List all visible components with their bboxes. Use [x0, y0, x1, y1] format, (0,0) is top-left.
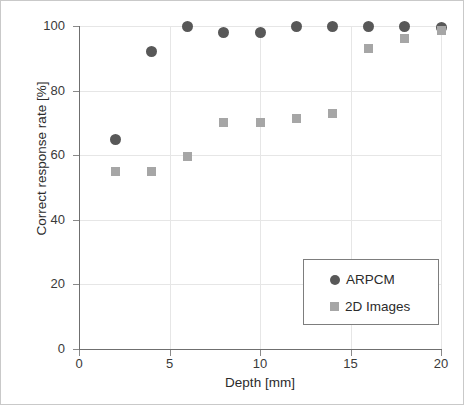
y-axis-tick	[73, 220, 79, 221]
gridline-vertical	[170, 26, 171, 349]
x-axis-tick-label: 15	[343, 357, 357, 370]
y-axis-tick	[73, 284, 79, 285]
y-axis-tick-label: 100	[43, 19, 65, 32]
data-point-circle	[110, 134, 121, 145]
y-axis-tick-label: 0	[58, 342, 65, 355]
chart-figure: 02040608010005101520 Correct response ra…	[0, 0, 464, 405]
data-point-square	[111, 167, 120, 176]
y-axis-title: Correct response rate [%]	[34, 39, 49, 279]
data-point-circle	[399, 21, 410, 32]
legend-label-2d-images: 2D Images	[345, 299, 410, 314]
data-point-square	[364, 44, 373, 53]
y-axis-tick-label: 40	[51, 213, 65, 226]
y-axis-title-wrapper: Correct response rate [%]	[1, 1, 41, 405]
data-point-square	[256, 118, 265, 127]
data-point-square	[437, 26, 446, 35]
data-point-circle	[182, 21, 193, 32]
y-axis-line	[79, 26, 80, 350]
data-point-square	[328, 109, 337, 118]
legend-square-marker-icon	[330, 302, 339, 311]
x-axis-tick-label: 0	[75, 357, 82, 370]
x-axis-tick-label: 20	[434, 357, 448, 370]
y-axis-tick	[73, 91, 79, 92]
data-point-square	[183, 152, 192, 161]
x-axis-title: Depth [mm]	[79, 375, 441, 390]
data-point-square	[292, 114, 301, 123]
legend-label-arpcm: ARPCM	[346, 272, 395, 287]
gridline-vertical	[441, 26, 442, 349]
y-axis-tick-label: 60	[51, 148, 65, 161]
y-axis-tick	[73, 26, 79, 27]
y-axis-tick-label: 80	[51, 84, 65, 97]
legend-circle-marker-icon	[330, 275, 340, 285]
data-point-square	[400, 34, 409, 43]
x-axis-tick-label: 5	[166, 357, 173, 370]
legend-item-2d-images: 2D Images	[330, 299, 410, 314]
x-axis-tick-label: 10	[253, 357, 267, 370]
data-point-circle	[291, 21, 302, 32]
data-point-square	[147, 167, 156, 176]
data-point-circle	[363, 21, 374, 32]
legend-item-arpcm: ARPCM	[330, 272, 395, 287]
y-axis-tick-label: 20	[51, 277, 65, 290]
gridline-vertical	[260, 26, 261, 349]
legend-box: ARPCM 2D Images	[303, 259, 439, 325]
data-point-square	[219, 118, 228, 127]
data-point-circle	[327, 21, 338, 32]
data-point-circle	[255, 27, 266, 38]
y-axis-tick	[73, 155, 79, 156]
